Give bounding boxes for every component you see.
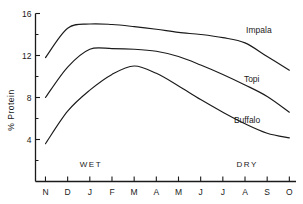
- x-tick-label: D: [65, 187, 71, 197]
- x-axis-tick-labels: NDJFMAMJJASO: [42, 187, 293, 197]
- x-tick-label: J: [221, 187, 225, 197]
- chart-figure: % Protein 481216 NDJFMAMJJASO ImpalaTopi…: [0, 0, 303, 204]
- x-tick-label: F: [109, 187, 114, 197]
- svg-text:% Protein: % Protein: [6, 89, 16, 130]
- x-tick-label: M: [175, 187, 182, 197]
- y-axis-ticks: [36, 14, 41, 161]
- x-tick-label: A: [242, 187, 248, 197]
- x-tick-label: J: [199, 187, 203, 197]
- y-tick-label: 4: [27, 135, 32, 145]
- y-tick-label: 16: [22, 9, 32, 19]
- series-label-impala: Impala: [246, 25, 272, 35]
- series-label-topi: Topi: [244, 74, 260, 84]
- season-annotations: WETDRY: [80, 160, 258, 169]
- x-tick-label: O: [286, 187, 293, 197]
- x-tick-label: S: [264, 187, 270, 197]
- y-axis-title: % Protein: [6, 89, 16, 130]
- series-label-buffalo: Buffalo: [234, 115, 261, 125]
- y-tick-label: 12: [22, 51, 32, 61]
- y-tick-label: 8: [27, 93, 32, 103]
- x-tick-label: A: [153, 187, 159, 197]
- axes: [36, 14, 297, 182]
- x-tick-label: M: [131, 187, 138, 197]
- y-axis-tick-labels: 481216: [22, 9, 32, 145]
- season-label-dry: DRY: [236, 160, 258, 169]
- x-tick-label: J: [88, 187, 92, 197]
- x-tick-label: N: [42, 187, 48, 197]
- series-labels: ImpalaTopiBuffalo: [234, 25, 272, 124]
- x-axis-ticks: [45, 177, 289, 182]
- protein-by-month-line-chart: % Protein 481216 NDJFMAMJJASO ImpalaTopi…: [0, 0, 303, 204]
- season-label-wet: WET: [80, 160, 103, 169]
